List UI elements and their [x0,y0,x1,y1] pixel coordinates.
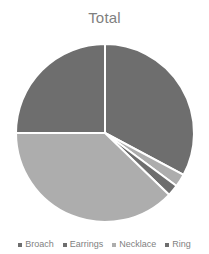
pie-slice-group [16,44,194,222]
legend-item-earrings[interactable]: Earrings [63,239,104,250]
legend-label: Necklace [119,239,156,250]
legend-label: Ring [172,239,191,250]
legend-swatch-icon [112,243,116,247]
legend-item-broach[interactable]: Broach [18,239,54,250]
pie-svg [0,34,209,230]
pie-chart-figure: Total BroachEarringsNecklaceRing [0,0,209,254]
chart-legend: BroachEarringsNecklaceRing [0,239,209,250]
legend-swatch-icon [18,243,22,247]
legend-item-ring[interactable]: Ring [165,239,191,250]
legend-swatch-icon [165,243,169,247]
pie-slice-broach[interactable] [16,44,105,133]
pie-plot-area [0,34,209,230]
legend-label: Earrings [70,239,104,250]
chart-title: Total [0,9,209,27]
legend-swatch-icon [63,243,67,247]
legend-label: Broach [25,239,54,250]
legend-item-necklace[interactable]: Necklace [112,239,156,250]
